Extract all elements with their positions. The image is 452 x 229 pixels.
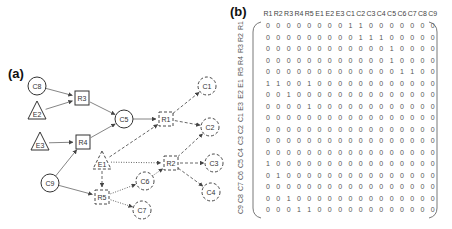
matrix-cell: 0 (304, 126, 314, 133)
matrix-cell: 0 (304, 57, 314, 64)
matrix-cell: 0 (397, 160, 407, 167)
matrix-cell: 0 (345, 80, 355, 87)
matrix-cell: 1 (345, 22, 355, 29)
matrix-cell: 0 (315, 34, 325, 41)
matrix-cell: 0 (284, 172, 294, 179)
matrix-cell: 1 (263, 160, 273, 167)
matrix-cell: 0 (366, 68, 376, 75)
matrix-cell: 0 (376, 68, 386, 75)
matrix-cell: 0 (366, 206, 376, 213)
matrix-cell: 0 (418, 183, 428, 190)
node-C3: C3 (205, 154, 223, 172)
matrix-cell: 0 (263, 91, 273, 98)
node-C6: C6 (136, 172, 154, 190)
matrix-cell: 0 (387, 91, 397, 98)
matrix-cell: 0 (315, 45, 325, 52)
matrix-cell: 0 (366, 183, 376, 190)
matrix-cell: 0 (273, 149, 283, 156)
matrix-cell: 1 (376, 34, 386, 41)
edge-R1-C1 (173, 92, 199, 113)
edge-C8-R3 (46, 88, 73, 95)
matrix-cell: 0 (315, 114, 325, 121)
edge-R4-C5 (91, 124, 115, 138)
matrix-cell: 0 (325, 126, 335, 133)
matrix-cell: 0 (428, 91, 438, 98)
matrix-cell: 0 (325, 195, 335, 202)
matrix-cell: 0 (284, 22, 294, 29)
matrix-cell: 0 (273, 183, 283, 190)
matrix-cell: 0 (407, 34, 417, 41)
matrix-cell: 0 (376, 57, 386, 64)
matrix-cell: 0 (366, 114, 376, 121)
matrix-cell: 0 (263, 137, 273, 144)
matrix-cell: 0 (263, 195, 273, 202)
matrix-cell: 0 (356, 206, 366, 213)
matrix-cell: 0 (376, 137, 386, 144)
svg-text:C2: C2 (206, 124, 215, 131)
matrix-cell: 0 (294, 103, 304, 110)
matrix-cell: 0 (428, 126, 438, 133)
matrix-cell: 0 (273, 45, 283, 52)
edge-R3-C5 (90, 102, 115, 115)
svg-text:C6: C6 (141, 178, 150, 185)
node-C2: C2 (201, 118, 219, 136)
matrix-cell: 0 (387, 80, 397, 87)
panel-a-label: (a) (8, 66, 24, 81)
matrix-cell: 0 (366, 195, 376, 202)
matrix-cell: 0 (273, 68, 283, 75)
matrix-cell: 0 (315, 195, 325, 202)
node-R5: R5 (95, 190, 109, 204)
matrix-cell: 0 (335, 195, 345, 202)
matrix-cell: 0 (376, 149, 386, 156)
matrix-cell: 0 (284, 34, 294, 41)
matrix-cell: 0 (418, 114, 428, 121)
matrix-cell: 0 (376, 103, 386, 110)
matrix-cell: 0 (428, 114, 438, 121)
matrix-cell: 0 (294, 57, 304, 64)
edge-R5-C6 (110, 184, 135, 193)
matrix-cell: 0 (356, 183, 366, 190)
matrix-cell: 0 (263, 183, 273, 190)
matrix-cell: 0 (294, 114, 304, 121)
matrix-cell: 0 (273, 137, 283, 144)
matrix-cell: 0 (387, 195, 397, 202)
matrix-cell: 0 (418, 126, 428, 133)
matrix-cell: 0 (418, 80, 428, 87)
matrix-cell: 0 (345, 160, 355, 167)
matrix-cell: 0 (294, 68, 304, 75)
matrix-cell: 0 (263, 172, 273, 179)
matrix-cell: 0 (294, 91, 304, 98)
matrix-cell: 0 (335, 183, 345, 190)
matrix-cell: 0 (284, 137, 294, 144)
matrix-cell: 0 (418, 172, 428, 179)
matrix-cell: 0 (335, 103, 345, 110)
matrix-cell: 0 (387, 34, 397, 41)
matrix-cell: 0 (294, 172, 304, 179)
matrix-cell: 0 (428, 206, 438, 213)
matrix-cell: 0 (335, 34, 345, 41)
nodes-layer: C8E2E3R3R4C5C9R1C1C2E1R2C3C4C6R5C7 (28, 77, 223, 219)
svg-text:E1: E1 (98, 161, 107, 168)
matrix-cell: 0 (345, 137, 355, 144)
matrix-cell: 0 (428, 68, 438, 75)
matrix-cell: 0 (345, 91, 355, 98)
matrix-cell: 0 (325, 45, 335, 52)
matrix-cell: 0 (304, 114, 314, 121)
matrix-cell: 0 (418, 149, 428, 156)
matrix-cell: 0 (325, 22, 335, 29)
matrix-cell: 0 (263, 34, 273, 41)
column-header-C9: C9 (427, 10, 438, 17)
matrix-cell: 0 (315, 68, 325, 75)
matrix-cell: 1 (304, 103, 314, 110)
matrix-cell: 0 (284, 126, 294, 133)
matrix-cell: 1 (304, 206, 314, 213)
node-R1: R1 (159, 112, 173, 126)
svg-text:C7: C7 (138, 207, 147, 214)
svg-text:C3: C3 (210, 160, 219, 167)
matrix-cell: 0 (325, 137, 335, 144)
matrix-cell: 0 (407, 172, 417, 179)
matrix-cell: 0 (315, 149, 325, 156)
matrix-cell: 0 (304, 137, 314, 144)
matrix-cell: 0 (273, 206, 283, 213)
matrix-cell: 0 (407, 114, 417, 121)
